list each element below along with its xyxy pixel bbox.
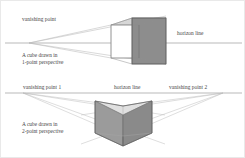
two-point-perspective-panel: vanishing point 1 horizon line vanishing… <box>1 80 245 158</box>
two-point-perspective-drawing <box>1 80 245 158</box>
vanishing-point-2-label: vanishing point 2 <box>169 84 207 90</box>
caption-line-1: A cube drawn in <box>22 52 63 59</box>
caption-line-1: A cube drawn in <box>22 121 63 128</box>
perspective-drawing-figure: vanishing point horizon line A cube draw… <box>0 0 245 158</box>
two-point-caption: A cube drawn in 2-point perspective <box>22 121 63 134</box>
convergence-line-top-front <box>29 25 111 43</box>
one-point-caption: A cube drawn in 1-point perspective <box>22 52 63 65</box>
vanishing-point-1-label: vanishing point 1 <box>23 84 61 90</box>
horizon-line-label: horizon line <box>114 84 141 90</box>
vanishing-point-label: vanishing point <box>22 16 56 22</box>
one-point-perspective-panel: vanishing point horizon line A cube draw… <box>1 1 245 80</box>
caption-line-2: 2-point perspective <box>22 128 63 135</box>
receding-edge-bottom-left <box>111 58 132 64</box>
one-point-perspective-drawing <box>1 1 245 80</box>
caption-line-2: 1-point perspective <box>22 59 63 66</box>
horizon-line-label: horizon line <box>177 30 204 36</box>
